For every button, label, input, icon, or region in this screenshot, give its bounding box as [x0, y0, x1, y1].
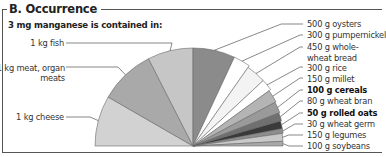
label-cheese: 1 kg cheese [16, 112, 64, 122]
leader-line [273, 78, 303, 96]
label-rice: 300 g rice [307, 63, 347, 73]
label-wheat-germ: 30 g wheat germ [307, 119, 375, 129]
label-meat: 1 kg meat, organ meats [0, 63, 65, 83]
leader-line [214, 24, 303, 50]
label-millet: 150 g millet [307, 74, 354, 84]
label-cereals: 100 g cereals [307, 85, 367, 95]
leader-line [66, 117, 98, 121]
leader-line [278, 90, 303, 107]
label-fish: 1 kg fish [30, 38, 64, 48]
pie-slices [95, 48, 283, 146]
label-pumpernickel: 300 g pumpernickel [307, 30, 386, 40]
label-soybeans: 100 g soybeans [307, 141, 370, 151]
label-whole-wheat-bread: 450 g whole- wheat bread [307, 42, 359, 63]
leader-line [242, 35, 303, 61]
leader-line [283, 135, 303, 137]
label-legumes: 150 g legumes [307, 130, 366, 140]
leader-line [66, 67, 126, 75]
leader-line [267, 67, 303, 85]
leader-line [280, 101, 303, 117]
label-wheat-bran: 80 g wheat bran [307, 96, 372, 106]
label-rolled-oats: 50 g rolled oats [307, 108, 377, 118]
leader-line [281, 113, 303, 125]
label-oysters: 500 g oysters [307, 19, 361, 29]
leader-line [283, 124, 303, 131]
leader-line [66, 43, 172, 51]
leader-line [283, 144, 303, 146]
